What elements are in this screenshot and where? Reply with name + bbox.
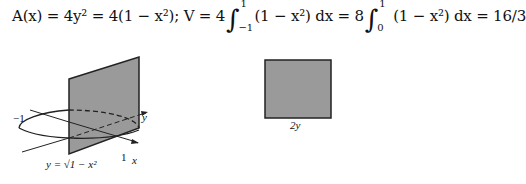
- cross-section-face: [265, 60, 331, 118]
- ellipse-back-left: [19, 110, 69, 128]
- label-curve-equation: y = √1 − x²: [46, 158, 96, 170]
- left-figure: [19, 57, 148, 154]
- label-one: 1: [121, 151, 127, 163]
- label-side-length: 2y: [290, 119, 300, 131]
- label-x-axis: x: [132, 154, 137, 166]
- y-axis-front: [22, 138, 69, 152]
- label-minus-one: −1: [13, 112, 25, 124]
- label-y-axis: y: [142, 111, 147, 123]
